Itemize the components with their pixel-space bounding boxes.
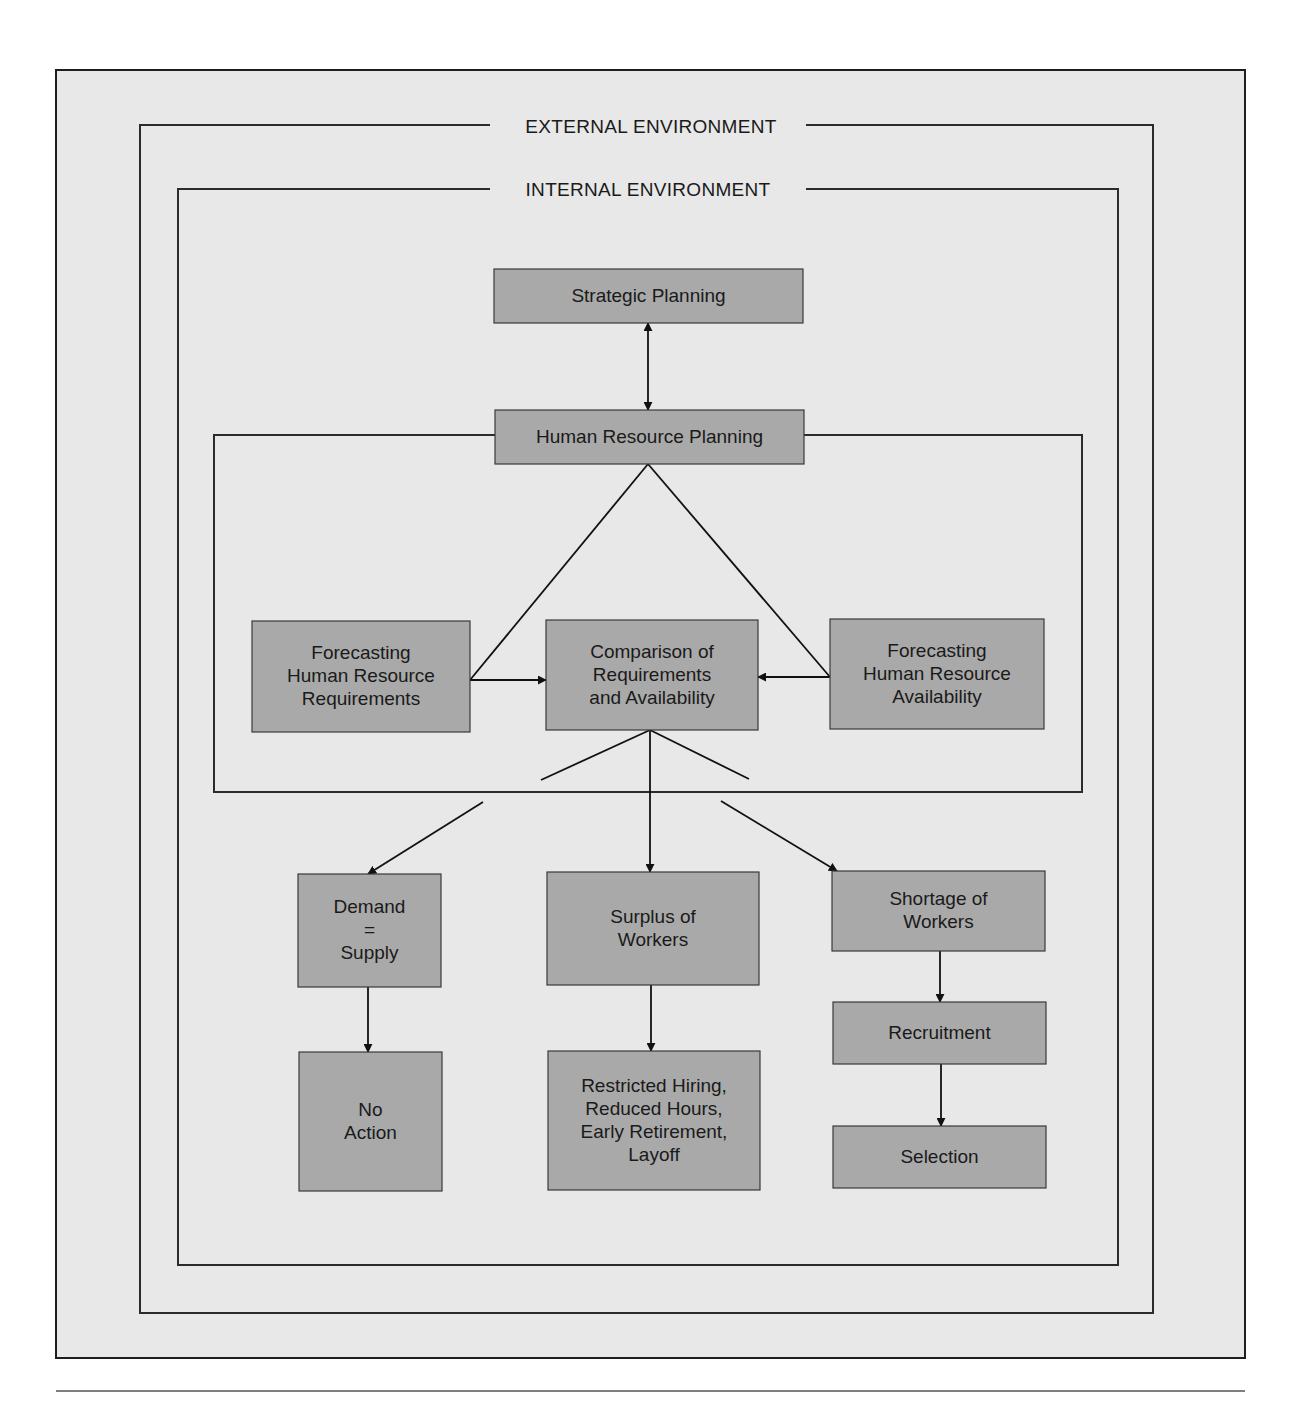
node-label-line: Workers — [903, 911, 973, 932]
node-label-line: Selection — [900, 1146, 978, 1167]
node-label-line: No — [358, 1099, 382, 1120]
node-label-line: Reduced Hours, — [585, 1098, 722, 1119]
node-label-line: Workers — [618, 929, 688, 950]
node-forecasting-requirements: ForecastingHuman ResourceRequirements — [252, 621, 470, 732]
node-label-line: Human Resource — [287, 665, 435, 686]
node-label-line: Recruitment — [888, 1022, 991, 1043]
node-shortage-of-workers: Shortage ofWorkers — [832, 871, 1045, 951]
node-human-resource-planning: Human Resource Planning — [495, 410, 804, 464]
node-forecasting-availability: ForecastingHuman ResourceAvailability — [830, 619, 1044, 729]
node-comparison: Comparison ofRequirementsand Availabilit… — [546, 620, 758, 730]
node-label-line: Action — [344, 1122, 397, 1143]
node-label-line: Forecasting — [887, 640, 986, 661]
node-label-line: Layoff — [628, 1144, 680, 1165]
node-label-line: Early Retirement, — [581, 1121, 728, 1142]
node-label-line: Supply — [340, 942, 399, 963]
external-environment-label: EXTERNAL ENVIRONMENT — [525, 116, 776, 137]
node-demand-equals-supply: Demand=Supply — [298, 874, 441, 987]
node-label-line: Forecasting — [311, 642, 410, 663]
node-strategic-planning: Strategic Planning — [494, 269, 803, 323]
node-label-line: Comparison of — [590, 641, 714, 662]
node-label-line: and Availability — [589, 687, 715, 708]
node-recruitment: Recruitment — [833, 1002, 1046, 1064]
node-label-line: Demand — [334, 896, 406, 917]
node-label-line: Availability — [892, 686, 982, 707]
node-restricted-hiring: Restricted Hiring,Reduced Hours,Early Re… — [548, 1051, 760, 1190]
node-label-line: Human Resource — [863, 663, 1011, 684]
node-selection: Selection — [833, 1126, 1046, 1188]
node-label-line: Strategic Planning — [571, 285, 725, 306]
node-label-line: Surplus of — [610, 906, 696, 927]
hr-planning-diagram: EXTERNAL ENVIRONMENT INTERNAL ENVIRONMEN… — [0, 0, 1291, 1403]
node-label-line: = — [364, 919, 375, 940]
node-label-line: Requirements — [593, 664, 711, 685]
node-label-line: Restricted Hiring, — [581, 1075, 727, 1096]
node-label-line: Human Resource Planning — [536, 426, 763, 447]
node-label-line: Shortage of — [889, 888, 988, 909]
internal-environment-label: INTERNAL ENVIRONMENT — [526, 179, 771, 200]
node-label-line: Requirements — [302, 688, 420, 709]
node-surplus-of-workers: Surplus ofWorkers — [547, 872, 759, 985]
node-no-action: NoAction — [299, 1052, 442, 1191]
